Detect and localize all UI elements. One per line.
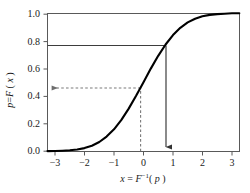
y-tick-label-0.2: 0.2: [18, 119, 40, 129]
x-axis-title-close-paren: ): [160, 173, 166, 184]
x-tick-label-2: 2: [200, 158, 205, 168]
x-tick-label-1: 1: [171, 158, 176, 168]
y-axis-title-var: p: [4, 103, 15, 108]
x-axis-title-exponent: −1: [142, 172, 149, 180]
y-axis-title-open-paren: (: [4, 83, 15, 91]
y-tick-label-1.0: 1.0: [18, 9, 40, 19]
x-axis-ticks: [55, 152, 232, 156]
y-tick-label-0.0: 0.0: [18, 146, 40, 156]
figure-container: 1.0 0.8 0.6 0.4 0.2 0.0 −3 −2 −1 0 1 2 3…: [0, 0, 250, 193]
y-tick-label-0.4: 0.4: [18, 91, 40, 101]
y-axis-title-equals: =: [4, 97, 15, 103]
y-axis-title-arg: x: [4, 78, 15, 82]
y-axis-title-close-paren: ): [4, 72, 15, 78]
y-axis-title-wrapper: p=F ( x ): [3, 83, 17, 97]
x-tick-label-minus3: −3: [50, 158, 61, 168]
y-axis-ticks: [44, 14, 48, 151]
y-axis-title-func: F: [4, 91, 15, 97]
y-tick-label-0.8: 0.8: [18, 37, 40, 47]
x-tick-label-minus2: −2: [79, 158, 90, 168]
x-tick-label-0: 0: [141, 158, 146, 168]
x-tick-label-3: 3: [230, 158, 235, 168]
y-axis-title: p=F ( x ): [5, 72, 15, 107]
y-tick-label-0.6: 0.6: [18, 64, 40, 74]
x-axis-title: x = F−1( p ): [120, 173, 165, 184]
x-tick-label-minus1: −1: [109, 158, 120, 168]
x-axis-title-equals: =: [125, 173, 136, 184]
